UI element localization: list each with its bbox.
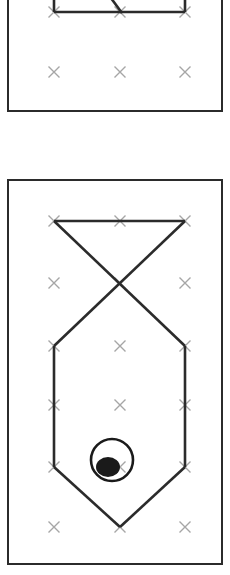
diagram-canvas [0, 0, 230, 575]
position-marker-x-icon [180, 522, 191, 533]
position-marker-x-icon [49, 278, 60, 289]
position-marker-x-icon [115, 341, 126, 352]
position-marker-x-icon [115, 67, 126, 78]
ball-dot-icon [96, 457, 120, 477]
play-route-lines [54, 0, 185, 13]
position-marker-x-icon [49, 522, 60, 533]
home-plate-right-bevel[interactable] [120, 467, 185, 527]
ball-marker[interactable] [91, 439, 133, 481]
position-marker-x-icon [180, 67, 191, 78]
position-marker-grid [49, 216, 191, 533]
position-marker-x-icon [115, 400, 126, 411]
lower-diagram-panel[interactable] [7, 179, 223, 565]
position-marker-grid [49, 7, 191, 78]
position-marker-x-icon [180, 278, 191, 289]
play-route-lines [54, 221, 185, 527]
upper-panel-graphics [9, 0, 225, 114]
upper-diagram-panel[interactable] [7, 0, 223, 112]
position-marker-x-icon [49, 67, 60, 78]
lower-panel-graphics [9, 181, 225, 567]
